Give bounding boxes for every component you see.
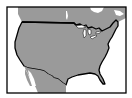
us-locator-map <box>0 0 132 98</box>
map-frame-content <box>7 7 126 93</box>
lake-huron <box>88 29 91 35</box>
